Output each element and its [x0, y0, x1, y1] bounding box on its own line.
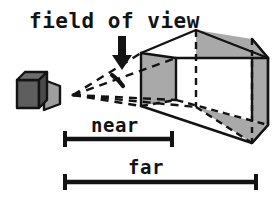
page-title: field of view — [29, 9, 200, 33]
camera-apex-point — [71, 93, 74, 96]
camera-body-front — [17, 80, 39, 108]
near-measure-label: near — [91, 114, 139, 136]
diagram-canvas: field of view near far — [0, 0, 272, 198]
far-measure-label: far — [128, 156, 164, 178]
camera-body-side — [39, 72, 47, 108]
arrow-shaft — [118, 36, 126, 57]
field-of-view-diagram: field of view near far — [0, 0, 272, 198]
